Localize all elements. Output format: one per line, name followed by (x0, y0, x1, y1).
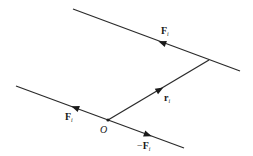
negative-force-label: −Fi (137, 140, 151, 152)
negative-force-arrow-icon (143, 130, 153, 139)
upper-line-of-action (73, 9, 240, 71)
lower-force-label: Fi (65, 111, 73, 123)
origin-label: O (100, 124, 107, 135)
lower-line-of-action (16, 86, 184, 148)
upper-force-arrow-icon (157, 38, 167, 47)
upper-force-label: Fi (161, 25, 169, 37)
lower-force-arrow-icon (70, 103, 80, 112)
force-diagram: Fi Fi −Fi ri O (0, 0, 253, 156)
position-vector-label: ri (164, 92, 170, 104)
origin-point (106, 118, 109, 121)
